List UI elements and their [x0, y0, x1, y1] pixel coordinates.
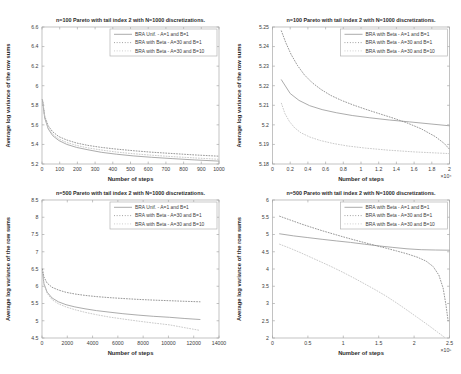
x-tick-label: 700 [162, 166, 171, 172]
y-tick-label: 4.5 [31, 335, 38, 341]
x-tick-label: 2 [413, 340, 416, 346]
y-tick-label: 5.6 [31, 122, 38, 128]
y-tick-label: 7.5 [31, 231, 38, 237]
x-tick-label: 600 [144, 166, 153, 172]
plot-title: n=500 Pareto with tail index 2 with N=10… [56, 190, 205, 196]
x-tick-label: 1.6 [410, 166, 417, 172]
x-tick-label: 0 [41, 340, 44, 346]
plot-title: n=100 Pareto with tail index 2 with N=10… [287, 17, 436, 23]
x-exponent-label: ×10⁴ [440, 173, 451, 179]
x-tick-label: 1.5 [375, 340, 382, 346]
axes: 00.511.522.522.533.544.555.56n=500 Paret… [236, 190, 454, 357]
axes: 010020030040050060070080090010005.25.45.… [5, 17, 225, 183]
x-tick-label: 0.4 [304, 166, 311, 172]
y-tick-label: 6 [36, 283, 39, 289]
subplot-top-left-canvas: 010020030040050060070080090010005.25.45.… [0, 0, 230, 187]
y-axis-label: Average log variance of the row sums [236, 43, 242, 147]
x-tick-label: 1.2 [375, 166, 382, 172]
x-tick-label: 500 [126, 166, 135, 172]
y-axis-label: Average log variance of the row sums [5, 217, 11, 321]
x-tick-label: 2 [448, 166, 451, 172]
y-tick-label: 5.18 [259, 161, 269, 167]
y-tick-label: 5.5 [31, 300, 38, 306]
plot-title: n=500 Pareto with tail index 2 with N=10… [287, 190, 436, 196]
x-tick-label: 300 [91, 166, 100, 172]
legend-label: BRA with Beta - A=1 and B=1 [366, 32, 430, 37]
x-tick-label: 0.2 [287, 166, 294, 172]
y-tick-label: 7 [36, 249, 39, 255]
plot-title: n=100 Pareto with tail index 2 with N=10… [56, 17, 205, 23]
legend-label: BRA with Beta - A=30 and B=10 [135, 49, 205, 54]
x-tick-label: 14000 [212, 340, 227, 346]
axes: 00.20.40.60.811.21.41.61.825.185.195.25.… [236, 17, 452, 183]
y-tick-label: 4 [266, 266, 269, 272]
x-tick-label: 0.8 [340, 166, 347, 172]
y-tick-label: 5 [266, 231, 269, 237]
y-tick-label: 8 [36, 214, 39, 220]
x-tick-label: 0 [271, 340, 274, 346]
x-tick-label: 10000 [161, 340, 176, 346]
legend-label: BRA with Beta - A=30 and B=10 [135, 222, 205, 227]
x-tick-label: 100 [55, 166, 64, 172]
y-tick-label: 6.5 [31, 266, 38, 272]
x-tick-label: 1.4 [393, 166, 400, 172]
y-tick-label: 2.5 [262, 318, 269, 324]
subplot-bottom-left: 020004000600080001000012000140004.555.56… [0, 187, 230, 374]
legend: BRA with Beta - A=1 and B=1BRA with Beta… [341, 202, 448, 229]
y-tick-label: 5.25 [259, 24, 269, 30]
y-axis-label: Average log variance of the row sums [5, 43, 11, 147]
legend-label: BRA with Beta - A=30 and B=1 [135, 40, 202, 45]
legend: BRA with Beta - A=1 and B=1BRA with Beta… [341, 29, 448, 56]
x-tick-label: 0 [271, 166, 274, 172]
y-tick-label: 5.23 [259, 63, 269, 69]
y-tick-label: 5.21 [259, 102, 269, 108]
subplot-bottom-right-canvas: 00.511.522.522.533.544.555.56n=500 Paret… [230, 187, 461, 374]
y-tick-label: 5.24 [259, 43, 269, 49]
x-tick-label: 900 [197, 166, 206, 172]
legend: BRA Unif. - A=1 and B=1BRA with Beta - A… [110, 29, 217, 56]
axes: 020004000600080001000012000140004.555.56… [5, 190, 226, 357]
legend-label: BRA with Beta - A=30 and B=1 [135, 213, 202, 218]
y-tick-label: 5 [36, 318, 39, 324]
x-tick-label: 0 [41, 166, 44, 172]
legend-label: BRA with Beta - A=30 and B=1 [366, 40, 433, 45]
y-tick-label: 5.22 [259, 83, 269, 89]
y-axis-label: Average log variance of the row sums [236, 217, 242, 321]
subplot-top-right-canvas: 00.20.40.60.811.21.41.61.825.185.195.25.… [230, 0, 461, 187]
y-tick-label: 5.19 [259, 141, 269, 147]
y-tick-label: 5.2 [262, 122, 269, 128]
y-tick-label: 6.6 [31, 24, 38, 30]
y-tick-label: 4.5 [262, 249, 269, 255]
legend-label: BRA with Beta - A=30 and B=10 [366, 222, 436, 227]
y-tick-label: 2 [266, 335, 269, 341]
y-tick-label: 5.2 [31, 161, 38, 167]
x-axis-label: Number of steps [108, 350, 154, 356]
x-tick-label: 12000 [186, 340, 201, 346]
x-exponent-label: ×10⁵ [441, 347, 452, 353]
x-tick-label: 0.6 [322, 166, 329, 172]
legend-label: BRA with Beta - A=30 and B=10 [366, 49, 436, 54]
figure-window: { "style": { "background": "#ffffff", "a… [0, 0, 461, 374]
x-tick-label: 2000 [62, 340, 74, 346]
x-axis-label: Number of steps [108, 176, 154, 182]
x-tick-label: 1.8 [428, 166, 435, 172]
y-tick-label: 6 [266, 197, 269, 203]
x-axis-label: Number of steps [338, 176, 384, 182]
legend-label: BRA with Beta - A=30 and B=1 [366, 213, 433, 218]
legend-label: BRA with Beta - A=1 and B=1 [366, 205, 430, 210]
y-tick-label: 5.8 [31, 102, 38, 108]
x-tick-label: 4000 [87, 340, 99, 346]
x-tick-label: 0.5 [304, 340, 311, 346]
y-tick-label: 5.5 [262, 214, 269, 220]
y-tick-label: 6 [36, 83, 39, 89]
subplot-top-right: 00.20.40.60.811.21.41.61.825.185.195.25.… [230, 0, 461, 187]
y-tick-label: 5.4 [31, 141, 38, 147]
x-tick-label: 8000 [137, 340, 149, 346]
x-tick-label: 1 [342, 340, 345, 346]
subplot-bottom-left-canvas: 020004000600080001000012000140004.555.56… [0, 187, 230, 374]
y-tick-label: 6.2 [31, 63, 38, 69]
x-tick-label: 2.5 [446, 340, 453, 346]
x-tick-label: 800 [179, 166, 188, 172]
x-tick-label: 1 [360, 166, 363, 172]
subplot-top-left: 010020030040050060070080090010005.25.45.… [0, 0, 230, 187]
